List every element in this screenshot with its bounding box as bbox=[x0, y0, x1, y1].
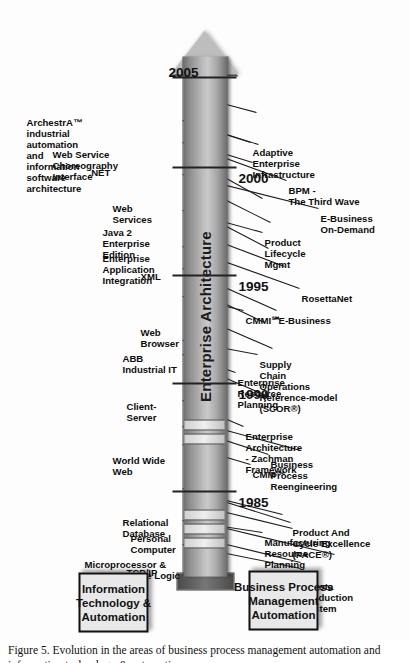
label-rosettanet: RosettaNet bbox=[301, 292, 352, 303]
year-tick bbox=[172, 382, 236, 384]
label-web-services: Web Services bbox=[112, 202, 151, 224]
label-archestra: ArchestrA™ industrial automation and inf… bbox=[26, 116, 82, 193]
year-tick bbox=[172, 490, 236, 492]
end-box-business-label: Business Process Management Automation bbox=[233, 579, 332, 621]
label-e-business: E-Business bbox=[278, 314, 330, 325]
label-abb-industrial-it: ABB Industrial IT bbox=[122, 352, 176, 374]
label-cmmi: CMMI℠ bbox=[245, 314, 281, 325]
year-tick bbox=[172, 166, 236, 168]
figure-caption: Figure 5. Evolution in the areas of busi… bbox=[8, 643, 401, 663]
label-bpm-third-wave: BPM - The Third Wave bbox=[288, 184, 359, 206]
figure-evolution-timeline: Enterprise Architecture 1985 1990 1995 2… bbox=[0, 0, 409, 640]
label-java-2-enterprise-edition: Java 2 Enterprise Edition bbox=[102, 226, 149, 259]
label-e-business-on-demand: E-Business On-Demand bbox=[320, 212, 374, 234]
year-label-1985: 1985 bbox=[238, 494, 268, 509]
end-box-business-process-management-automation: Business Process Management Automation bbox=[248, 570, 318, 630]
label-world-wide-web: World Wide Web bbox=[112, 454, 165, 476]
year-label-2005: 2005 bbox=[168, 64, 198, 79]
end-box-information-technology-automation: Information Technology & Automation bbox=[78, 572, 148, 632]
label-product-lifecycle-mgmt: Product Lifecycle Mgmt bbox=[264, 236, 305, 269]
label-client-server: Client- Server bbox=[126, 400, 156, 422]
year-tick bbox=[172, 274, 236, 276]
axis-title: Enterprise Architecture bbox=[182, 56, 226, 576]
label-product-and-cycle-excellence: Product And Cycle Excellence (PACE®) bbox=[292, 526, 370, 559]
label-adaptive-enterprise-infrastructure: Adaptive Enterprise Infrastructure bbox=[252, 146, 314, 179]
diagram-stage: Enterprise Architecture 1985 1990 1995 2… bbox=[0, 0, 409, 640]
end-box-it-label: Information Technology & Automation bbox=[75, 581, 150, 623]
label-supply-chain-operations-reference-model: Supply Chain Operations Reference-model … bbox=[259, 358, 337, 413]
label-relational-database: Relational Database bbox=[122, 516, 168, 538]
label-enterprise-architecture-zachman: Enterprise Architecture - Zachman Framew… bbox=[245, 430, 302, 474]
label-web-browser: Web Browser bbox=[140, 326, 178, 348]
year-label-1995: 1995 bbox=[238, 278, 268, 293]
